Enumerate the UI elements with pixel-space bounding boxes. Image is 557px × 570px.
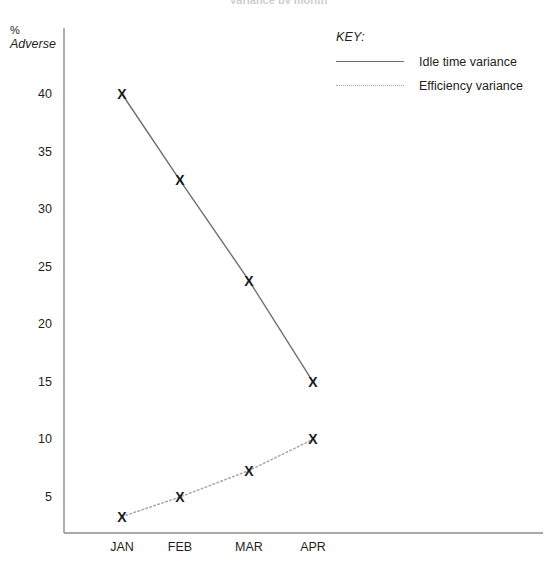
data-point-marker: X	[175, 490, 184, 504]
legend-item-efficiency-variance: Efficiency variance	[336, 74, 551, 98]
x-axis-tick-label: FEB	[168, 540, 192, 554]
line-chart: Variance by month % Adverse 510152025303…	[0, 0, 557, 570]
data-point-marker: X	[117, 87, 126, 101]
x-axis-tick-label: APR	[300, 540, 326, 554]
x-axis-tick-label: JAN	[110, 540, 134, 554]
data-point-marker: X	[308, 432, 317, 446]
legend-item-idle-time-variance: Idle time variance	[336, 50, 551, 74]
legend-title: KEY:	[336, 30, 551, 44]
y-axis-tick-label: 25	[8, 260, 52, 274]
y-axis-tick-label: 30	[8, 202, 52, 216]
series-line-idle-time-variance	[122, 94, 313, 382]
data-point-marker: X	[244, 464, 253, 478]
x-axis-tick-label: MAR	[235, 540, 263, 554]
legend-swatch-dotted-icon	[336, 80, 404, 92]
series-line-efficiency-variance	[122, 439, 313, 516]
y-axis-tick-label: 15	[8, 375, 52, 389]
legend-label-idle-time-variance: Idle time variance	[404, 55, 517, 69]
y-axis-tick-label: 40	[8, 87, 52, 101]
data-point-marker: X	[308, 375, 317, 389]
legend-swatch-solid-icon	[336, 56, 404, 68]
data-point-marker: X	[117, 510, 126, 524]
y-axis-tick-label: 5	[8, 490, 52, 504]
y-axis-tick-label: 20	[8, 317, 52, 331]
y-axis-tick-label: 10	[8, 432, 52, 446]
legend: KEY: Idle time variance Efficiency varia…	[336, 30, 551, 98]
legend-label-efficiency-variance: Efficiency variance	[404, 79, 523, 93]
data-point-marker: X	[244, 274, 253, 288]
y-axis-tick-label: 35	[8, 145, 52, 159]
data-point-marker: X	[175, 173, 184, 187]
